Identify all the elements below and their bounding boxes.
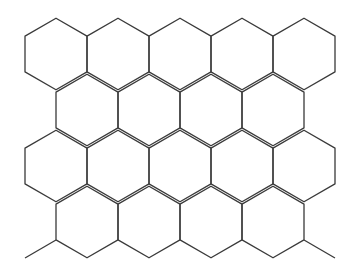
edge-stub bbox=[304, 240, 335, 258]
hexagon-grid-diagram bbox=[0, 0, 355, 270]
edge-stub bbox=[25, 240, 56, 258]
hexagon-grid-svg bbox=[0, 0, 355, 270]
